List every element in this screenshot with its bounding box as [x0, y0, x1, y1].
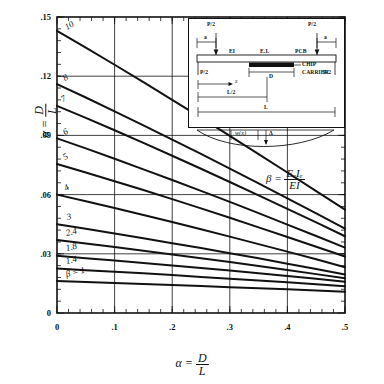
x-tick-label-.2: .2: [158, 322, 186, 332]
figure-canvas: α = D L α = D L 0.03.06.09.12.150.1.2.3.…: [0, 0, 384, 384]
beta-symbol: β: [266, 172, 271, 184]
curve-label-beta-2.4: 2.4: [64, 225, 77, 237]
inset-beam-diagram: P/2 P/2 a a EI EₑIₑ PCB CHIP CARRIER P/2…: [188, 18, 345, 128]
y-tick-label-.09: .09: [23, 130, 51, 140]
curve-beta-3: [57, 224, 345, 274]
inset-label-chip-line1: CHIP: [302, 61, 316, 67]
x-tick-label-.5: .5: [331, 322, 359, 332]
inset-label-dim-a-right: a: [324, 34, 327, 40]
inset-label-beam-stiffness: EI: [229, 48, 235, 54]
load-arrow-left-head: [214, 50, 219, 56]
chip-carrier-body: [249, 63, 294, 68]
inset-label-dim-x: x: [235, 78, 238, 84]
deflection-diagram: [188, 126, 348, 160]
inset-label-chip-stiffness: EₑIₑ: [260, 48, 269, 54]
dim-x-group: [198, 80, 231, 89]
beta-equals: =: [274, 172, 281, 184]
curve-beta-1.8: [57, 256, 345, 282]
beta-numerator: EₑIₑ: [284, 168, 304, 180]
y-tick-label-.03: .03: [23, 249, 51, 259]
deflection-label-w: w(x): [235, 130, 246, 136]
inset-label-load-left: P/2: [207, 21, 215, 27]
y-tick-label-.15: .15: [23, 12, 51, 22]
beta-denominator: EI: [284, 180, 304, 191]
beta-definition-formula: β = EₑIₑ EI: [266, 168, 305, 191]
inset-label-dim-L: L: [264, 104, 268, 110]
y-tick-label-.12: .12: [23, 71, 51, 81]
x-tick-label-.1: .1: [101, 322, 129, 332]
inset-label-reaction-left: P/2: [200, 69, 208, 75]
beta-fraction: EₑIₑ EI: [284, 168, 304, 191]
delta-arrow-head: [264, 140, 268, 145]
x-tick-label-0: 0: [43, 322, 71, 332]
inset-label-load-right: P/2: [308, 21, 316, 27]
load-arrow-right-head: [315, 50, 320, 56]
x-tick-label-.4: .4: [273, 322, 301, 332]
inset-label-dim-D: D: [269, 73, 273, 79]
x-tick-label-.3: .3: [216, 322, 244, 332]
y-tick-label-0: 0: [23, 308, 51, 318]
dim-x-arrow-head: [229, 82, 234, 86]
deflected-beam-curve: [197, 130, 334, 147]
inset-label-dim-a-left: a: [204, 34, 207, 40]
y-tick-label-.06: .06: [23, 190, 51, 200]
inset-label-pcb: PCB: [295, 48, 307, 54]
inset-label-dim-L-half: L/2: [227, 89, 235, 95]
inset-label-reaction-right: P/2: [323, 69, 331, 75]
deflection-label-delta: Δ: [269, 130, 273, 136]
